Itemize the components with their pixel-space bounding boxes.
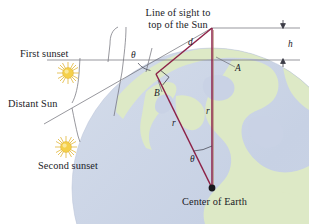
figure-root: Line of sight to top of the Sun First su… xyxy=(0,0,309,224)
line-of-sight-label-line2: top of the Sun xyxy=(122,19,234,31)
sun-first-sunset xyxy=(57,62,79,84)
label-A: A xyxy=(235,63,241,74)
earth-center-dot xyxy=(209,185,216,192)
label-r-vertical: r xyxy=(206,106,210,117)
distant-sun-label: Distant Sun xyxy=(8,98,57,110)
sun-second-sunset xyxy=(55,136,77,158)
leader-distant-sun-down xyxy=(72,108,80,142)
first-sunset-label: First sunset xyxy=(20,48,68,60)
leader-line-of-sight-1 xyxy=(108,27,118,62)
line-of-sight-label-line1: Line of sight to xyxy=(122,7,234,19)
center-of-earth-label: Center of Earth xyxy=(182,196,247,208)
label-d: d xyxy=(188,37,193,48)
label-B: B xyxy=(154,88,160,99)
second-sunset-label: Second sunset xyxy=(38,160,98,172)
label-theta-center: θ xyxy=(190,154,195,165)
label-theta-top: θ xyxy=(131,50,136,61)
sunset-earth-diagram xyxy=(0,0,309,224)
label-h: h xyxy=(288,39,293,50)
label-r-diagonal: r xyxy=(172,118,176,129)
